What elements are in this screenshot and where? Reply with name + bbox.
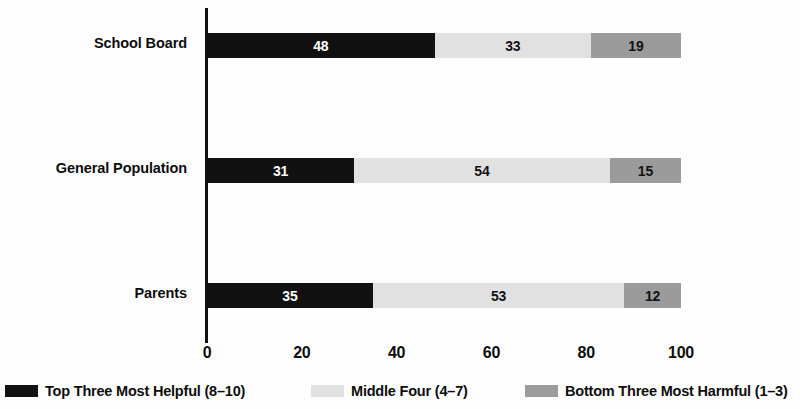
chart-legend: Top Three Most Helpful (8–10)Middle Four… (0, 379, 800, 403)
bar-segment: 54 (354, 158, 610, 183)
bar-segment-value: 15 (638, 164, 653, 178)
bar-segment-value: 53 (491, 289, 506, 303)
legend-swatch (525, 385, 558, 397)
x-axis-tick-label: 60 (461, 344, 521, 362)
stacked-bar: 355312 (207, 283, 681, 308)
x-axis-tick-label: 40 (367, 344, 427, 362)
bar-row: General Population315415 (0, 158, 800, 183)
bar-segment: 15 (610, 158, 681, 183)
x-axis-zero-tick (205, 336, 208, 343)
legend-swatch (5, 385, 38, 397)
x-axis-tick-label: 0 (177, 344, 237, 362)
bar-segment-value: 12 (645, 289, 660, 303)
legend-item: Top Three Most Helpful (8–10) (5, 379, 245, 403)
bar-segment: 33 (435, 33, 591, 58)
legend-item: Middle Four (4–7) (311, 379, 468, 403)
x-axis-tick-label: 20 (272, 344, 332, 362)
bar-segment: 35 (207, 283, 373, 308)
stacked-bar: 483319 (207, 33, 681, 58)
bar-segment-value: 33 (505, 39, 520, 53)
legend-swatch (311, 385, 344, 397)
bar-segment: 31 (207, 158, 354, 183)
bar-segment: 19 (591, 33, 681, 58)
plot-area: School Board483319General Population3154… (0, 0, 800, 370)
bar-segment-value: 48 (313, 39, 328, 53)
bar-segment: 12 (624, 283, 681, 308)
bar-segment-value: 31 (273, 164, 288, 178)
bar-segment-value: 35 (282, 289, 297, 303)
bar-row: School Board483319 (0, 33, 800, 58)
bar-segment-value: 54 (474, 164, 489, 178)
bar-row: Parents355312 (0, 283, 800, 308)
legend-item: Bottom Three Most Harmful (1–3) (525, 379, 788, 403)
legend-label: Top Three Most Helpful (8–10) (45, 383, 245, 399)
bar-segment: 53 (373, 283, 624, 308)
bar-segment: 48 (207, 33, 435, 58)
legend-label: Middle Four (4–7) (351, 383, 468, 399)
stacked-bar: 315415 (207, 158, 681, 183)
x-axis-tick-label: 80 (556, 344, 616, 362)
category-label: General Population (0, 160, 187, 176)
legend-label: Bottom Three Most Harmful (1–3) (565, 383, 788, 399)
category-label: School Board (0, 35, 187, 51)
bar-segment-value: 19 (628, 39, 643, 53)
category-label: Parents (0, 285, 187, 301)
x-axis-tick-label: 100 (651, 344, 711, 362)
stacked-bar-chart: School Board483319General Population3154… (0, 0, 800, 409)
